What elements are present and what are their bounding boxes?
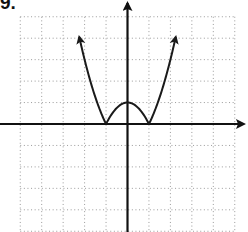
coordinate-graph [0, 0, 248, 232]
curve-right-branch [149, 37, 176, 124]
curve-left-branch [79, 37, 106, 124]
